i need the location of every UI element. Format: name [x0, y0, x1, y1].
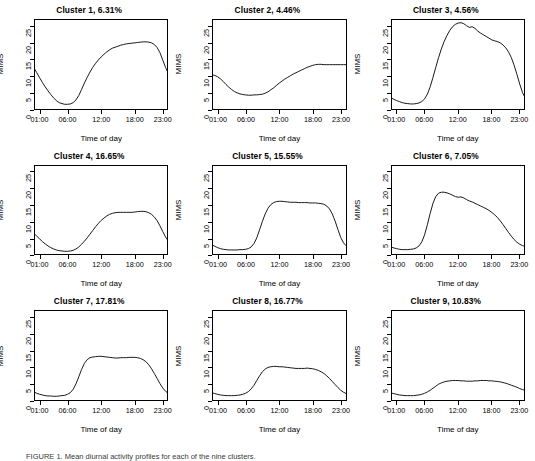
x-tick-label: 23:00 — [510, 261, 528, 269]
y-axis: MIMS 0510152025 — [357, 165, 391, 256]
y-tick-label: 15 — [25, 205, 32, 219]
x-axis: Time of day 01:0006:0012:0018:0023:00 — [212, 110, 346, 146]
x-tick-mark — [424, 110, 425, 114]
x-tick-label: 23:00 — [332, 407, 350, 415]
y-tick-label: 15 — [204, 351, 211, 365]
plot-area — [391, 310, 525, 401]
y-tick-label: 20 — [382, 43, 389, 57]
x-tick-mark — [341, 110, 342, 114]
x-tick-mark — [341, 401, 342, 405]
x-tick-label: 12:00 — [92, 407, 110, 415]
x-tick-label: 06:00 — [415, 116, 433, 124]
y-axis-label: MIMS — [175, 336, 183, 376]
x-tick-mark — [218, 255, 219, 259]
y-tick-label: 5 — [25, 384, 32, 398]
x-tick-label: 12:00 — [449, 116, 467, 124]
y-axis: MIMS 0510152025 — [178, 310, 212, 401]
y-tick-label: 15 — [25, 351, 32, 365]
x-tick-label: 12:00 — [449, 261, 467, 269]
panel-title-cluster-7: Cluster 7, 17.81% — [0, 296, 178, 306]
x-tick-label: 23:00 — [332, 261, 350, 269]
series-curve-cluster-2 — [212, 19, 346, 110]
x-tick-label: 06:00 — [415, 407, 433, 415]
cluster-panel-6: Cluster 6, 7.05% MIMS 0510152025 Time of… — [357, 146, 535, 292]
x-tick-mark — [458, 401, 459, 405]
panel-title-cluster-6: Cluster 6, 7.05% — [357, 151, 535, 161]
plot-area — [212, 310, 346, 401]
panel-title-cluster-8: Cluster 8, 16.77% — [178, 296, 356, 306]
x-tick-mark — [135, 110, 136, 114]
x-tick-label: 18:00 — [304, 407, 322, 415]
x-tick-mark — [40, 401, 41, 405]
x-tick-label: 01:00 — [31, 407, 49, 415]
x-axis-label: Time of day — [212, 425, 346, 434]
y-axis: MIMS 0510152025 — [178, 19, 212, 110]
x-tick-label: 06:00 — [415, 261, 433, 269]
x-axis-label: Time of day — [34, 279, 168, 288]
x-tick-mark — [135, 255, 136, 259]
series-curve-cluster-5 — [212, 165, 346, 256]
x-axis: Time of day 01:0006:0012:0018:0023:00 — [34, 110, 168, 146]
y-tick-label: 15 — [382, 59, 389, 73]
series-curve-cluster-6 — [391, 165, 525, 256]
x-tick-mark — [279, 401, 280, 405]
panel-grid: Cluster 1, 6.31% MIMS 0510152025 Time of… — [0, 0, 535, 437]
x-axis-label: Time of day — [212, 279, 346, 288]
y-tick-label: 10 — [25, 367, 32, 381]
x-axis: Time of day 01:0006:0012:0018:0023:00 — [391, 255, 525, 291]
y-tick-label: 25 — [25, 26, 32, 40]
figure-caption: FIGURE 1. Mean diurnal activity profiles… — [26, 452, 516, 461]
y-tick-label: 25 — [204, 171, 211, 185]
y-tick-label: 5 — [204, 384, 211, 398]
cluster-panel-2: Cluster 2, 4.46% MIMS 0510152025 Time of… — [178, 0, 356, 146]
x-tick-mark — [163, 401, 164, 405]
x-tick-mark — [163, 110, 164, 114]
x-tick-label: 18:00 — [126, 116, 144, 124]
y-tick-label: 10 — [25, 76, 32, 90]
x-tick-mark — [396, 110, 397, 114]
x-tick-mark — [396, 401, 397, 405]
x-tick-label: 12:00 — [270, 407, 288, 415]
cluster-panel-4: Cluster 4, 16.65% MIMS 0510152025 Time o… — [0, 146, 178, 292]
x-tick-mark — [519, 401, 520, 405]
y-tick-label: 20 — [25, 188, 32, 202]
y-axis-label: MIMS — [354, 190, 362, 230]
cluster-panel-1: Cluster 1, 6.31% MIMS 0510152025 Time of… — [0, 0, 178, 146]
x-tick-mark — [246, 401, 247, 405]
x-tick-mark — [101, 401, 102, 405]
x-tick-label: 12:00 — [270, 261, 288, 269]
x-tick-label: 01:00 — [31, 116, 49, 124]
y-tick-label: 20 — [25, 43, 32, 57]
y-tick-label: 20 — [382, 188, 389, 202]
figure-container: Cluster 1, 6.31% MIMS 0510152025 Time of… — [0, 0, 535, 461]
y-axis: MIMS 0510152025 — [0, 19, 34, 110]
x-tick-mark — [101, 110, 102, 114]
series-curve-cluster-4 — [34, 165, 168, 256]
x-tick-mark — [313, 255, 314, 259]
panel-title-cluster-2: Cluster 2, 4.46% — [178, 5, 356, 15]
x-tick-mark — [424, 401, 425, 405]
y-tick-label: 20 — [204, 188, 211, 202]
cluster-panel-7: Cluster 7, 17.81% MIMS 0510152025 Time o… — [0, 291, 178, 437]
x-tick-mark — [218, 401, 219, 405]
x-tick-mark — [519, 110, 520, 114]
x-tick-label: 12:00 — [449, 407, 467, 415]
x-tick-label: 23:00 — [332, 116, 350, 124]
x-tick-mark — [68, 401, 69, 405]
y-tick-label: 25 — [204, 317, 211, 331]
y-axis: MIMS 0510152025 — [357, 19, 391, 110]
x-axis: Time of day 01:0006:0012:0018:0023:00 — [391, 110, 525, 146]
x-tick-label: 23:00 — [510, 407, 528, 415]
y-axis-label: MIMS — [0, 44, 5, 84]
x-tick-label: 01:00 — [209, 407, 227, 415]
plot-area — [34, 19, 168, 110]
series-curve-cluster-3 — [391, 19, 525, 110]
y-axis: MIMS 0510152025 — [0, 310, 34, 401]
y-tick-label: 5 — [25, 93, 32, 107]
cluster-panel-8: Cluster 8, 16.77% MIMS 0510152025 Time o… — [178, 291, 356, 437]
x-tick-mark — [491, 255, 492, 259]
x-axis: Time of day 01:0006:0012:0018:0023:00 — [391, 401, 525, 437]
x-tick-mark — [396, 255, 397, 259]
y-axis-label: MIMS — [175, 44, 183, 84]
y-tick-label: 15 — [382, 205, 389, 219]
